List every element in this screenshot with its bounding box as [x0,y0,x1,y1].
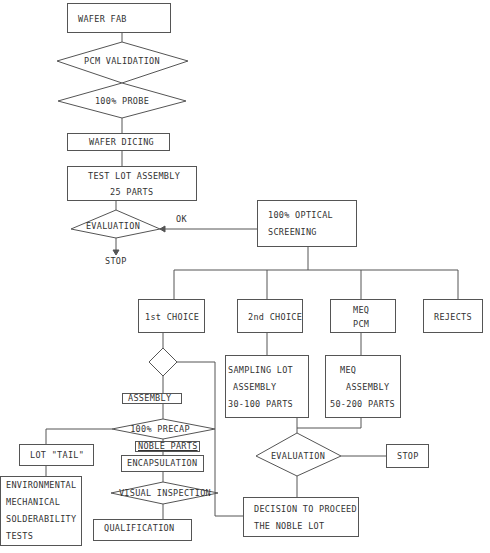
sampling-line3: 30-100 PARTS [228,399,293,409]
wafer-fab-label: WAFER FAB [78,14,127,24]
lot-tail-box: LOT "TAIL" [19,444,94,466]
test-lot-line1: TEST LOT ASSEMBLY [88,171,180,181]
meq-asm-line3: 50-200 PARTS [330,399,395,409]
stop-label-2: STOP [397,451,419,461]
stop-label-1: STOP [105,256,127,266]
rejects-box: REJECTS [423,299,483,333]
assembly-label: ASSEMBLY [128,393,171,403]
noble-parts-label: NOBLE PARTS [138,441,198,451]
meq-assembly-box: MEQ ASSEMBLY 50-200 PARTS [325,355,401,418]
decision-line1: DECISION TO PROCEED [254,504,357,514]
qualification-box: QUALIFICATION [93,519,192,541]
env-line4: TESTS [6,531,33,541]
second-choice-label: 2nd CHOICE [248,312,302,322]
env-line3: SOLDERABILITY [6,514,76,524]
optical-line1: 100% OPTICAL [268,210,333,220]
sampling-lot-assembly-box: SAMPLING LOT ASSEMBLY 30-100 PARTS [225,355,309,418]
wafer-fab-box: WAFER FAB [67,3,171,33]
precap-decision: 100% PRECAP [130,424,190,434]
decision-proceed-box: DECISION TO PROCEED THE NOBLE LOT [243,497,359,537]
second-choice-box: 2nd CHOICE [237,299,303,333]
stop-box-2: STOP [386,444,429,468]
meq-pcm-box: MEQ PCM [330,299,396,333]
noble-parts-box: NOBLE PARTS [135,441,200,452]
connector-lines [0,0,490,553]
environmental-tests-box: ENVIRONMENTAL MECHANICAL SOLDERABILITY T… [0,476,82,546]
rejects-label: REJECTS [434,312,472,322]
wafer-dicing-box: WAFER DICING [67,133,170,151]
meq-pcm-line2: PCM [353,319,369,329]
pcm-validation-decision: PCM VALIDATION [84,56,160,66]
ok-label: OK [176,214,187,224]
env-line2: MECHANICAL [6,497,60,507]
evaluation-decision-2: EVALUATION [271,451,325,461]
encapsulation-box: ENCAPSULATION [121,455,204,472]
first-choice-label: 1st CHOICE [145,312,199,322]
meq-asm-line2: ASSEMBLY [346,382,389,392]
sampling-line1: SAMPLING LOT [228,365,293,375]
test-lot-assembly-box: TEST LOT ASSEMBLY 25 PARTS [67,166,197,201]
optical-line2: SCREENING [268,227,317,237]
meq-pcm-line1: MEQ [353,305,369,315]
probe-decision: 100% PROBE [95,96,149,106]
meq-asm-line1: MEQ [340,365,356,375]
evaluation-decision-1: EVALUATION [86,221,140,231]
decision-line2: THE NOBLE LOT [254,521,324,531]
test-lot-line2: 25 PARTS [110,187,153,197]
visual-inspection-decision: VISUAL INSPECTION [119,488,211,498]
assembly-box: ASSEMBLY [122,393,182,404]
encapsulation-label: ENCAPSULATION [127,458,197,468]
env-line1: ENVIRONMENTAL [6,480,76,490]
first-choice-box: 1st CHOICE [138,299,205,333]
wafer-dicing-label: WAFER DICING [89,137,154,147]
sampling-line2: ASSEMBLY [233,382,276,392]
lot-tail-label: LOT "TAIL" [30,450,84,460]
qualification-label: QUALIFICATION [104,523,174,533]
optical-screening-box: 100% OPTICAL SCREENING [257,200,357,247]
